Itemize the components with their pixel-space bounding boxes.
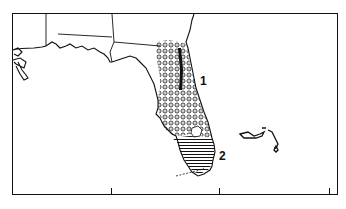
bahamas: [240, 128, 278, 152]
region-2-area: [172, 136, 214, 174]
figure-caption: [60, 202, 310, 209]
map: [0, 0, 346, 209]
bottom-ticks: [112, 188, 330, 194]
state-borders: [46, 14, 160, 62]
region-label-1: 1: [200, 75, 207, 87]
region-label-2: 2: [219, 150, 226, 162]
region-1-area: [156, 40, 212, 138]
